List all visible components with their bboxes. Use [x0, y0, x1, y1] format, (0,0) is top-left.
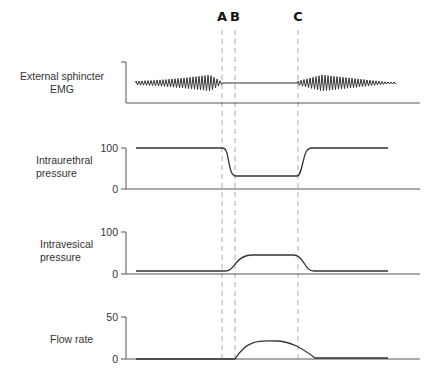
urethral-label-line2: pressure — [36, 167, 77, 179]
flow-tick-50: 50 — [106, 311, 118, 323]
vesical-tick-100: 100 — [100, 226, 118, 238]
panel-emg: External sphincter EMG — [20, 62, 420, 103]
vesical-tick-0: 0 — [112, 268, 118, 280]
emg-label-line2: EMG — [50, 83, 74, 95]
flow-tick-0: 0 — [112, 353, 118, 365]
phase-markers: A B C — [217, 9, 303, 362]
urethral-tick-0: 0 — [112, 183, 118, 195]
urethral-label-line1: Intraurethral — [36, 154, 93, 166]
emg-trace — [136, 75, 396, 91]
urethral-tick-100: 100 — [100, 142, 118, 154]
flow-trace — [136, 341, 388, 359]
panel-intravesical: Intravesical pressure 100 0 — [40, 226, 420, 280]
marker-b-label: B — [230, 9, 240, 24]
marker-a-label: A — [217, 9, 227, 24]
urethral-axes — [121, 148, 420, 189]
vesical-trace — [136, 255, 388, 271]
vesical-label-line1: Intravesical — [40, 238, 93, 250]
panel-intraurethral: Intraurethral pressure 100 0 — [36, 142, 420, 195]
vesical-axes — [121, 232, 420, 274]
flow-label: Flow rate — [50, 333, 93, 345]
urodynamics-diagram: A B C External sphincter EMG Intraurethr… — [0, 0, 431, 376]
urethral-trace — [136, 148, 388, 176]
flow-axes — [121, 317, 420, 359]
emg-label-line1: External sphincter — [20, 70, 105, 82]
marker-c-label: C — [293, 9, 303, 24]
vesical-label-line2: pressure — [40, 251, 81, 263]
